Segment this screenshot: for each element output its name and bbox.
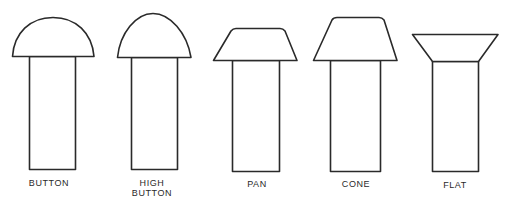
- rivet-button-shank: [30, 57, 76, 170]
- rivet-flat: [413, 35, 499, 172]
- rivet-button-label: BUTTON: [29, 178, 69, 188]
- rivet-pan-label: PAN: [247, 179, 267, 189]
- rivet-flat-shank: [433, 62, 479, 172]
- rivet-high-button: [118, 14, 192, 170]
- rivet-flat-label: FLAT: [443, 180, 467, 190]
- rivet-high-button-label: HIGH BUTTON: [132, 178, 172, 198]
- rivet-cone-label-line-1: CONE: [342, 179, 370, 189]
- rivet-high-button-label-line-2: BUTTON: [132, 188, 172, 198]
- rivet-head-types-diagram: BUTTON HIGH BUTTON PAN CONE FLAT: [0, 0, 506, 202]
- rivet-flat-head: [413, 35, 499, 62]
- rivet-pan-label-line-1: PAN: [247, 179, 267, 189]
- rivet-button: [13, 18, 95, 170]
- rivet-high-button-label-line-1: HIGH: [132, 178, 172, 188]
- rivet-pan-shank: [233, 61, 280, 172]
- rivet-cone-head: [314, 18, 398, 61]
- rivet-cone-label: CONE: [342, 179, 370, 189]
- rivet-pan-head: [214, 29, 298, 61]
- rivet-high-button-head: [118, 14, 192, 58]
- rivet-cone: [314, 18, 398, 172]
- rivet-cone-shank: [331, 61, 381, 172]
- rivet-button-label-line-1: BUTTON: [29, 178, 69, 188]
- rivet-pan: [214, 29, 298, 172]
- rivet-high-button-shank: [132, 58, 178, 170]
- rivet-flat-label-line-1: FLAT: [443, 180, 467, 190]
- rivet-button-head: [13, 18, 95, 57]
